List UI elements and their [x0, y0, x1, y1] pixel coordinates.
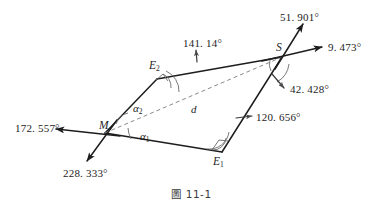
point-label-M: M — [99, 120, 109, 132]
point-label-E2-text: E — [149, 59, 156, 71]
arc-E2-outer — [166, 71, 179, 92]
arc-S-42428 — [277, 64, 289, 82]
angle-label-alpha2: α2 — [133, 103, 143, 116]
figure-container: 51. 901° 9. 473° 141. 14° 42. 428° 120. … — [0, 0, 383, 215]
point-label-M-text: M — [99, 119, 109, 131]
point-label-E1-text: E — [213, 155, 220, 167]
bearing-label-42428: 42. 428° — [290, 84, 329, 95]
angle-label-alpha1-subscript: 1 — [146, 135, 150, 144]
point-label-S: S — [276, 42, 282, 54]
bearing-label-14114: 141. 14° — [183, 38, 222, 49]
angle-label-alpha1: α1 — [140, 131, 150, 144]
pointer-42428 — [272, 74, 284, 88]
point-label-E2-subscript: 2 — [156, 64, 160, 73]
figure-caption: 圖 11-1 — [0, 186, 383, 201]
bearing-label-9473: 9. 473° — [328, 42, 361, 53]
pointer-14114 — [196, 50, 197, 62]
angle-pointer-arrows — [196, 50, 284, 118]
ray-S-9473 — [262, 47, 322, 61]
point-label-E1: E1 — [213, 156, 224, 169]
side-E1-M — [105, 133, 222, 152]
point-label-E1-subscript: 1 — [220, 160, 224, 169]
side-S-E1 — [222, 57, 282, 152]
bearing-label-51901: 51. 901° — [280, 12, 319, 23]
distance-label-d: d — [191, 104, 197, 115]
point-label-E2: E2 — [149, 60, 160, 73]
arc-S-small — [269, 60, 271, 71]
bearing-label-120656: 120. 656° — [256, 112, 301, 123]
bearing-label-228333: 228. 333° — [63, 168, 108, 179]
bearing-label-172557: 172. 557° — [15, 123, 60, 134]
angle-label-alpha2-subscript: 2 — [139, 107, 143, 116]
point-label-S-text: S — [276, 41, 282, 53]
